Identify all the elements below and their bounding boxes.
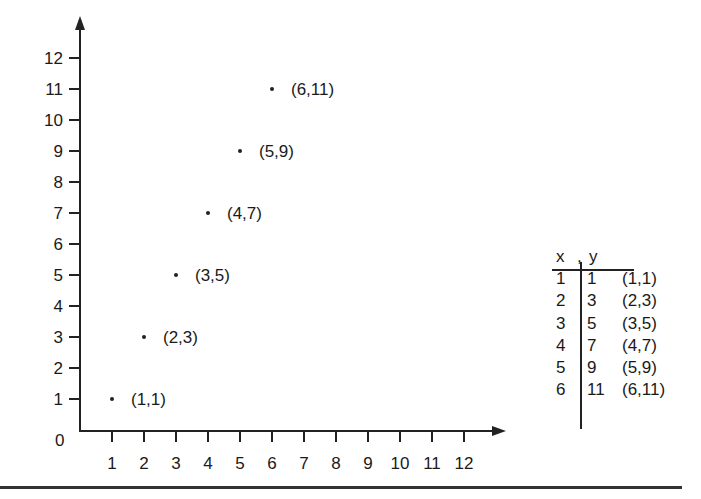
cell-pair: (5,9) <box>622 358 657 378</box>
y-tick-label: 7 <box>54 204 63 223</box>
page-divider <box>0 486 682 489</box>
cell-y: 11 <box>587 380 605 400</box>
x-ticks: 123456789101112 <box>107 431 473 473</box>
cell-pair: (6,11) <box>622 380 665 400</box>
y-tick-label: 4 <box>54 297 63 316</box>
header-y: y <box>589 247 598 267</box>
table-row: 611(6,11) <box>556 380 628 402</box>
x-tick-label: 2 <box>139 454 148 473</box>
header-x: x <box>556 247 565 267</box>
cell-pair: (2,3) <box>622 291 657 311</box>
x-tick-label: 12 <box>455 454 474 473</box>
table-row: 11(1,1) <box>556 269 628 291</box>
cell-pair: (1,1) <box>622 269 657 289</box>
data-point <box>174 273 178 277</box>
data-point <box>270 87 274 91</box>
x-tick-label: 1 <box>107 454 116 473</box>
cell-y: 3 <box>587 291 596 311</box>
cell-x: 4 <box>556 336 565 356</box>
cell-pair: (3,5) <box>622 314 657 334</box>
cell-x: 5 <box>556 358 565 378</box>
y-axis-arrow-icon <box>75 16 85 30</box>
origin-label: 0 <box>55 431 64 450</box>
cell-y: 9 <box>587 358 596 378</box>
y-tick-label: 12 <box>44 49 63 68</box>
table-row: 47(4,7) <box>556 336 628 358</box>
point-label: (4,7) <box>227 204 262 223</box>
y-tick-label: 11 <box>45 80 63 99</box>
cell-y: 7 <box>587 336 596 356</box>
x-axis-arrow-icon <box>492 426 506 436</box>
cell-x: 1 <box>556 269 565 289</box>
y-tick-label: 10 <box>44 111 63 130</box>
x-tick-label: 11 <box>423 454 441 473</box>
y-tick-label: 2 <box>54 359 63 378</box>
table-row: 59(5,9) <box>556 358 628 380</box>
table-body: 11(1,1)23(2,3)35(3,5)47(4,7)59(5,9)611(6… <box>556 269 628 403</box>
data-point <box>142 335 146 339</box>
y-tick-label: 6 <box>54 235 63 254</box>
cell-y: 1 <box>587 269 596 289</box>
y-tick-label: 9 <box>54 142 63 161</box>
point-label: (3,5) <box>195 266 230 285</box>
x-tick-label: 10 <box>391 454 410 473</box>
x-tick-label: 9 <box>363 454 372 473</box>
table-header-rule <box>552 269 634 271</box>
cell-x: 2 <box>556 291 565 311</box>
y-tick-label: 8 <box>54 173 63 192</box>
table-column-rule <box>580 262 582 429</box>
cell-pair: (4,7) <box>622 336 657 356</box>
point-label: (1,1) <box>131 390 166 409</box>
x-tick-label: 5 <box>235 454 244 473</box>
data-points: (1,1)(2,3)(3,5)(4,7)(5,9)(6,11) <box>110 80 334 409</box>
table-row: 35(3,5) <box>556 314 628 336</box>
x-tick-label: 8 <box>331 454 340 473</box>
data-point <box>206 211 210 215</box>
cell-x: 3 <box>556 314 565 334</box>
x-tick-label: 6 <box>267 454 276 473</box>
x-tick-label: 4 <box>203 454 212 473</box>
point-label: (6,11) <box>291 80 334 99</box>
y-tick-label: 3 <box>54 328 63 347</box>
table-header: x , y <box>556 247 628 269</box>
x-tick-label: 3 <box>171 454 180 473</box>
point-label: (2,3) <box>163 328 198 347</box>
cell-y: 5 <box>587 314 596 334</box>
cell-x: 6 <box>556 380 565 400</box>
point-label: (5,9) <box>259 142 294 161</box>
y-ticks: 123456789101112 <box>44 49 80 409</box>
data-point <box>238 149 242 153</box>
x-tick-label: 7 <box>299 454 308 473</box>
y-tick-label: 5 <box>54 266 63 285</box>
data-point <box>110 397 114 401</box>
y-tick-label: 1 <box>54 390 63 409</box>
table-row: 23(2,3) <box>556 291 628 313</box>
